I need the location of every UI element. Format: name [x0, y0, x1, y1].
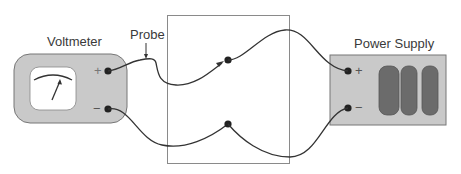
power-minus-sign: −	[355, 100, 363, 115]
circuit-box	[168, 16, 290, 164]
cell-1	[379, 66, 399, 115]
voltmeter-label: Voltmeter	[47, 34, 102, 49]
diagram-graphics	[0, 0, 461, 174]
cell-2	[401, 66, 417, 115]
voltmeter-plus-sign: +	[94, 63, 102, 78]
power-plus-sign: +	[355, 63, 363, 78]
power-supply-label: Power Supply	[354, 36, 434, 51]
probe-label: Probe	[130, 27, 165, 42]
voltmeter	[14, 54, 127, 123]
circuit-diagram: Voltmeter Probe Power Supply + − + −	[0, 0, 461, 174]
voltmeter-minus-sign: −	[93, 101, 101, 116]
cell-3	[422, 66, 438, 115]
meter-face	[30, 67, 76, 110]
power-supply	[330, 55, 446, 125]
